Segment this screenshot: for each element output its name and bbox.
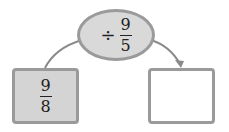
answer-box[interactable] [148, 68, 215, 124]
divide-operator: ÷ [100, 26, 115, 44]
arrowhead-icon [175, 60, 184, 68]
operation-denominator: 5 [120, 38, 130, 54]
operation-numerator: 9 [120, 17, 130, 33]
input-numerator: 9 [40, 78, 50, 94]
operation-fraction: 9 5 [120, 17, 132, 54]
operation-ellipse: ÷ 9 5 [77, 9, 155, 61]
input-denominator: 8 [40, 99, 50, 115]
input-connector-line [45, 40, 82, 68]
input-fraction: 9 8 [40, 78, 52, 115]
input-box: 9 8 [12, 68, 79, 124]
